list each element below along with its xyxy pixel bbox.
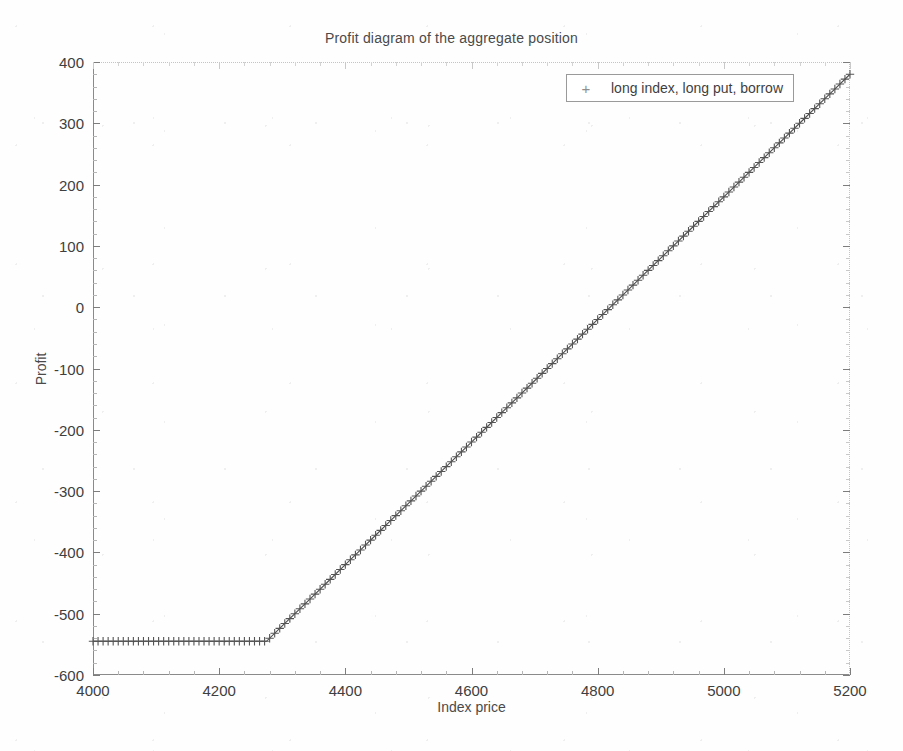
y-tick-label--100: -100 <box>54 360 84 377</box>
y-tick--600 <box>93 675 100 676</box>
y-tick-label--500: -500 <box>54 605 84 622</box>
y-axis-title: Profit <box>33 352 49 385</box>
x-tick-5200 <box>850 668 851 675</box>
y-tick-label-100: 100 <box>59 237 84 254</box>
x-tick-label-5200: 5200 <box>833 682 866 699</box>
y-tick-label-200: 200 <box>59 176 84 193</box>
y-tick-label--300: -300 <box>54 483 84 500</box>
y-tick-label--400: -400 <box>54 544 84 561</box>
x-tick-label-4000: 4000 <box>76 682 109 699</box>
figure-canvas: Profit diagram of the aggregate position… <box>0 0 903 751</box>
legend-label: long index, long put, borrow <box>611 80 783 96</box>
x-axis-title: Index price <box>93 699 850 715</box>
series-line-long-index-long-put-borrow <box>93 74 850 641</box>
y-tick-label--200: -200 <box>54 421 84 438</box>
page-title: Profit diagram of the aggregate position <box>0 30 903 46</box>
legend[interactable]: + long index, long put, borrow <box>566 74 794 102</box>
y-tick-label-0: 0 <box>76 299 84 316</box>
x-tick-label-4200: 4200 <box>202 682 235 699</box>
y-tick-label-400: 400 <box>59 54 84 71</box>
x-tick-label-4600: 4600 <box>455 682 488 699</box>
x-tick-label-4800: 4800 <box>581 682 614 699</box>
legend-plus-icon: + <box>573 81 599 95</box>
x-tick-label-4400: 4400 <box>329 682 362 699</box>
y-tick-label-300: 300 <box>59 115 84 132</box>
y-tick--600 <box>843 675 850 676</box>
plot-area: 4003002001000-100-200-300-400-500-600 40… <box>93 62 850 675</box>
x-tick-5200 <box>850 62 851 69</box>
y-tick-label--600: -600 <box>54 667 84 684</box>
series-markers-long-index-long-put-borrow <box>89 70 854 645</box>
data-layer <box>93 62 850 675</box>
x-tick-label-5000: 5000 <box>707 682 740 699</box>
